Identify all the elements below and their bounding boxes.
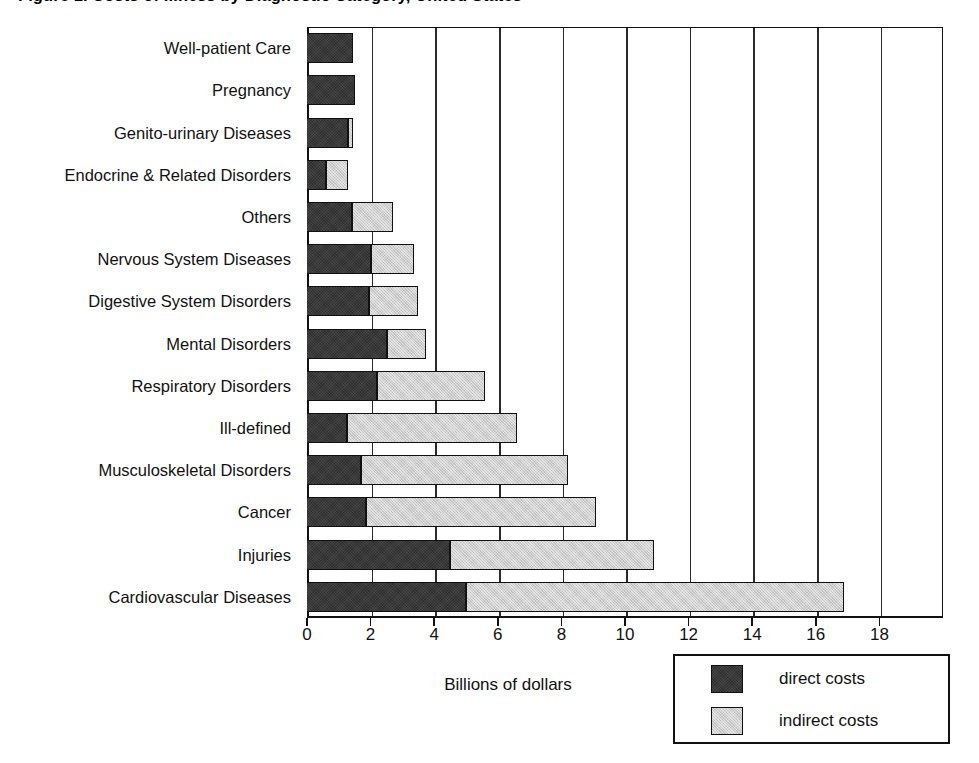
bar-row[interactable] [307, 582, 943, 612]
category-label: Well-patient Care [164, 39, 291, 57]
bar-segment-indirect-costs[interactable] [371, 244, 414, 274]
bar-segment-indirect-costs[interactable] [326, 160, 348, 190]
axis-tick-label: 10 [616, 625, 635, 645]
bar-segment-direct-costs[interactable] [307, 455, 361, 485]
category-label: Cancer [238, 503, 291, 521]
category-axis-labels: Well-patient CarePregnancyGenito-urinary… [0, 27, 299, 618]
bar-segment-direct-costs[interactable] [307, 75, 355, 105]
axis-tick-label: 4 [429, 625, 438, 645]
bar-segment-indirect-costs[interactable] [361, 455, 568, 485]
bar-segment-direct-costs[interactable] [307, 582, 466, 612]
bar-segment-indirect-costs[interactable] [377, 371, 485, 401]
bar-segment-direct-costs[interactable] [307, 244, 371, 274]
bar-segment-direct-costs[interactable] [307, 329, 387, 359]
bar-row[interactable] [307, 540, 943, 570]
bar-segment-direct-costs[interactable] [307, 160, 326, 190]
category-label: Musculoskeletal Disorders [98, 461, 291, 479]
bar-row[interactable] [307, 75, 943, 105]
chart-title: Figure 1. Costs of Illness by Diagnostic… [18, 0, 958, 4]
bar-row[interactable] [307, 286, 943, 316]
bar-segment-indirect-costs[interactable] [450, 540, 654, 570]
x-axis-title: Billions of dollars [444, 675, 572, 695]
legend-item-indirect-costs: indirect costs [675, 700, 948, 742]
axis-tick-label: 14 [743, 625, 762, 645]
axis-tick-label: 2 [366, 625, 375, 645]
category-label: Cardiovascular Diseases [109, 588, 292, 606]
bar-segment-direct-costs[interactable] [307, 413, 347, 443]
category-label: Mental Disorders [166, 335, 291, 353]
bar-segment-indirect-costs[interactable] [352, 202, 393, 232]
legend-label-direct-costs: direct costs [779, 669, 865, 689]
bar-segment-direct-costs[interactable] [307, 33, 353, 63]
bar-segment-indirect-costs[interactable] [366, 497, 597, 527]
bar-segment-direct-costs[interactable] [307, 497, 366, 527]
category-label: Respiratory Disorders [131, 377, 291, 395]
legend-swatch-direct-costs [711, 665, 743, 693]
bar-segment-direct-costs[interactable] [307, 286, 369, 316]
bar-segment-indirect-costs[interactable] [347, 413, 517, 443]
bar-segment-indirect-costs[interactable] [466, 582, 844, 612]
bar-segment-direct-costs[interactable] [307, 371, 377, 401]
value-axis-ticks: 024681012141618 [307, 618, 947, 630]
bar-row[interactable] [307, 33, 943, 63]
category-label: Digestive System Disorders [88, 292, 291, 310]
category-label: Genito-urinary Diseases [114, 124, 291, 142]
axis-tick-label: 12 [679, 625, 698, 645]
bar-row[interactable] [307, 371, 943, 401]
bar-row[interactable] [307, 497, 943, 527]
axis-tick-label: 8 [557, 625, 566, 645]
bar-series-container [307, 27, 943, 618]
category-label: Endocrine & Related Disorders [64, 166, 291, 184]
bar-row[interactable] [307, 160, 943, 190]
bar-segment-direct-costs[interactable] [307, 540, 450, 570]
legend: direct costs indirect costs [673, 654, 950, 744]
axis-tick-label: 6 [493, 625, 502, 645]
category-label: Pregnancy [212, 81, 291, 99]
legend-label-indirect-costs: indirect costs [779, 711, 878, 731]
bar-segment-direct-costs[interactable] [307, 202, 352, 232]
category-label: Ill-defined [219, 419, 291, 437]
bar-row[interactable] [307, 202, 943, 232]
category-label: Nervous System Diseases [98, 250, 291, 268]
category-label: Others [241, 208, 291, 226]
bar-row[interactable] [307, 118, 943, 148]
bar-row[interactable] [307, 244, 943, 274]
axis-tick-label: 16 [806, 625, 825, 645]
bar-row[interactable] [307, 455, 943, 485]
axis-tick-label: 18 [870, 625, 889, 645]
bar-segment-indirect-costs[interactable] [348, 118, 353, 148]
bar-segment-direct-costs[interactable] [307, 118, 348, 148]
legend-item-direct-costs: direct costs [675, 658, 948, 700]
bar-row[interactable] [307, 413, 943, 443]
bar-segment-indirect-costs[interactable] [369, 286, 418, 316]
bar-row[interactable] [307, 329, 943, 359]
bar-segment-indirect-costs[interactable] [387, 329, 427, 359]
legend-swatch-indirect-costs [711, 707, 743, 735]
category-label: Injuries [238, 546, 291, 564]
axis-tick-label: 0 [302, 625, 311, 645]
